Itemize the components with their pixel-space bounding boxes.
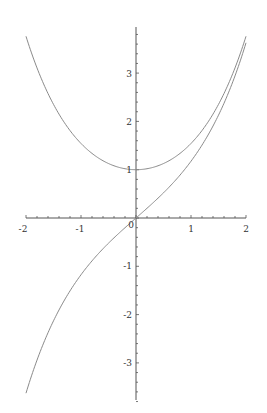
y-tick-label: -1: [123, 261, 132, 271]
origin-label: 0: [128, 220, 134, 230]
y-tick-label: 1: [126, 165, 132, 175]
y-tick-label: -3: [123, 358, 132, 368]
x-tick-label: 1: [188, 224, 194, 234]
x-tick-label: 2: [243, 224, 249, 234]
y-tick-label: 2: [126, 117, 132, 127]
x-tick-label: -2: [19, 224, 28, 234]
plot-area: -2 -1 0 1 2 3 2 1 -1 -2 -3: [0, 0, 267, 413]
x-tick-label: -1: [76, 224, 85, 234]
y-tick-label: 3: [126, 69, 132, 79]
y-tick-label: -2: [123, 310, 132, 320]
